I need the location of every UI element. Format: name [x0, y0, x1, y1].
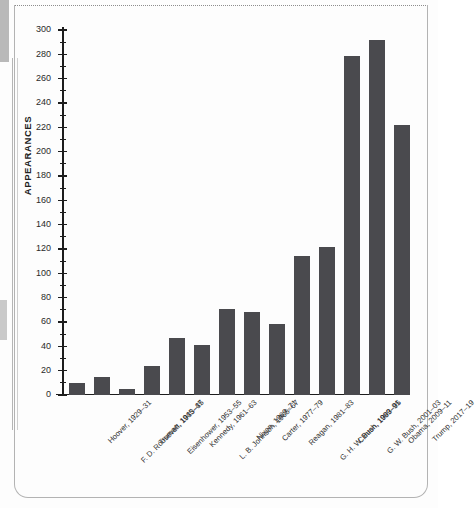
y-tick-label: 100: [36, 268, 51, 278]
bar[interactable]: [294, 256, 310, 395]
y-tick-label: 280: [36, 49, 51, 59]
y-tick-label: 180: [36, 170, 51, 180]
bar[interactable]: [69, 383, 85, 395]
bar-series: [62, 30, 412, 395]
bar[interactable]: [269, 324, 285, 395]
bar[interactable]: [94, 377, 110, 395]
y-tick-label: 60: [41, 316, 51, 326]
y-axis-title: APPEARANCES: [22, 101, 33, 211]
bar[interactable]: [194, 345, 210, 395]
bar[interactable]: [119, 389, 135, 395]
bar[interactable]: [394, 125, 410, 395]
y-tick-label: 0: [46, 389, 51, 399]
bar[interactable]: [369, 40, 385, 395]
y-tick-label: 140: [36, 219, 51, 229]
y-tick-label: 200: [36, 146, 51, 156]
bar[interactable]: [319, 247, 335, 395]
y-tick-label: 260: [36, 73, 51, 83]
bar[interactable]: [219, 309, 235, 395]
x-tick-label: Hoover, 1929–31: [105, 398, 152, 445]
x-axis-labels: Hoover, 1929–31F. D. Roosevelt, 1933–35T…: [62, 398, 422, 498]
bar[interactable]: [144, 366, 160, 395]
bar[interactable]: [169, 338, 185, 395]
y-tick-label: 40: [41, 341, 51, 351]
y-tick-label: 80: [41, 292, 51, 302]
y-tick-label: 300: [36, 24, 51, 34]
y-tick-label: 220: [36, 122, 51, 132]
y-tick-label: 120: [36, 243, 51, 253]
bar[interactable]: [344, 56, 360, 395]
y-tick-label: 160: [36, 195, 51, 205]
plot-area: 0204060801001201401601802002202402602803…: [62, 30, 412, 395]
y-tick-label: 20: [41, 365, 51, 375]
y-tick-label: 240: [36, 97, 51, 107]
bar[interactable]: [244, 312, 260, 395]
